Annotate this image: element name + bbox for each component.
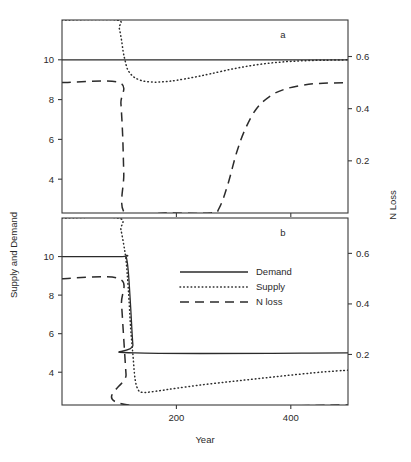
y-left-ticklabel-8: 8 [49,94,54,105]
legend-label-nloss: N loss [256,296,283,307]
legend-item-supply: Supply [180,281,285,292]
x-ticklabel-200: 200 [168,412,184,423]
legend-item-nloss: N loss [180,296,283,307]
panel-a-series-nloss [62,81,348,216]
y-left-ticklabel-6: 6 [49,134,54,145]
y-right-ticklabel-0.4: 0.4 [356,298,369,309]
y-right-ticklabel-0.2: 0.2 [356,349,369,360]
y-right-ticklabel-0.6: 0.6 [356,51,369,62]
panel-b-series-supply [62,217,348,392]
panel-b-series-demand [62,255,348,353]
y-axis-label-right: N Loss [387,190,398,220]
panel-b: 108640.60.40.2 b Demand Supply N loss [43,217,369,409]
y-left-ticklabel-6: 6 [49,328,54,339]
y-left-ticklabel-4: 4 [49,174,54,185]
panel-a: 108640.60.40.2 a [43,19,369,217]
panel-a-series-supply [62,19,348,82]
legend: Demand Supply N loss [180,266,292,307]
y-left-ticklabel-10: 10 [43,54,54,65]
y-left-ticklabel-4: 4 [49,367,54,378]
panel-a-ticks: 108640.60.40.2 [43,51,369,217]
legend-item-demand: Demand [180,266,292,277]
y-left-ticklabel-10: 10 [43,251,54,262]
y-right-ticklabel-0.6: 0.6 [356,248,369,259]
x-axis-ticks: 200400 [168,412,298,423]
y-left-ticklabel-8: 8 [49,290,54,301]
panel-a-frame [62,20,348,213]
panel-b-series-nloss [62,277,348,407]
x-axis-label: Year [195,434,214,445]
y-axis-label-left: Supply and Demand [8,212,19,298]
y-right-ticklabel-0.4: 0.4 [356,103,369,114]
x-ticklabel-400: 400 [283,412,299,423]
panel-b-frame [62,218,348,405]
panel-b-label: b [280,227,285,238]
legend-label-supply: Supply [256,281,285,292]
legend-label-demand: Demand [256,266,292,277]
y-right-ticklabel-0.2: 0.2 [356,155,369,166]
panel-a-label: a [280,29,286,40]
figure-root: 108640.60.40.2 a 108640.60.40.2 b Demand… [0,0,411,462]
